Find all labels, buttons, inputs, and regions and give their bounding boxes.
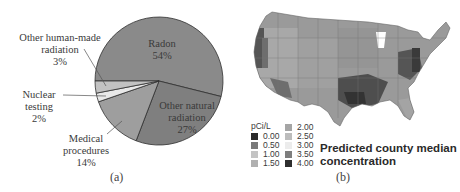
- label-nuclear-testing: Nuclear testing 2%: [14, 89, 64, 125]
- legend-value: 4.00: [297, 158, 314, 168]
- label-other-natural: Other natural radiation 27%: [152, 100, 222, 136]
- legend-swatch: [285, 151, 292, 158]
- map-title-line1: Predicted county median: [320, 142, 457, 155]
- label-other-human-line1: Other human-made: [10, 32, 110, 44]
- label-nuclear-pct: 2%: [14, 113, 64, 125]
- legend-swatch: [285, 124, 292, 131]
- legend-swatch: [251, 133, 258, 140]
- label-radon: Radon 54%: [140, 38, 184, 62]
- map-title-line2: concentration: [320, 155, 457, 168]
- label-other-human-made: Other human-made radiation 3%: [10, 32, 110, 68]
- label-other-natural-line1: Other natural: [152, 100, 222, 112]
- label-medical-pct: 14%: [56, 157, 116, 169]
- label-other-human-pct: 3%: [10, 56, 110, 68]
- legend-item-1-50: 1.50: [251, 158, 280, 168]
- legend-swatch: [251, 142, 258, 149]
- legend-swatch: [251, 160, 258, 167]
- caption-a: (a): [110, 170, 123, 185]
- label-medical-line1: Medical: [56, 133, 116, 145]
- caption-b: (b): [336, 170, 350, 185]
- label-nuclear-line2: testing: [14, 101, 64, 113]
- label-radon-pct: 54%: [140, 50, 184, 62]
- legend-item-4-00: 4.00: [285, 158, 314, 168]
- us-radon-map: [248, 8, 454, 128]
- label-medical-procedures: Medical procedures 14%: [56, 133, 116, 169]
- legend-value: 1.50: [263, 158, 280, 168]
- legend-title: pCi/L: [251, 121, 271, 131]
- label-other-natural-pct: 27%: [152, 124, 222, 136]
- map-title: Predicted county median concentration: [320, 142, 457, 168]
- label-other-human-line2: radiation: [10, 44, 110, 56]
- legend-swatch: [285, 160, 292, 167]
- legend-swatch: [251, 151, 258, 158]
- label-other-natural-line2: radiation: [152, 112, 222, 124]
- label-radon-name: Radon: [140, 38, 184, 50]
- label-medical-line2: procedures: [56, 145, 116, 157]
- label-nuclear-line1: Nuclear: [14, 89, 64, 101]
- legend-swatch: [285, 142, 292, 149]
- legend-swatch: [285, 133, 292, 140]
